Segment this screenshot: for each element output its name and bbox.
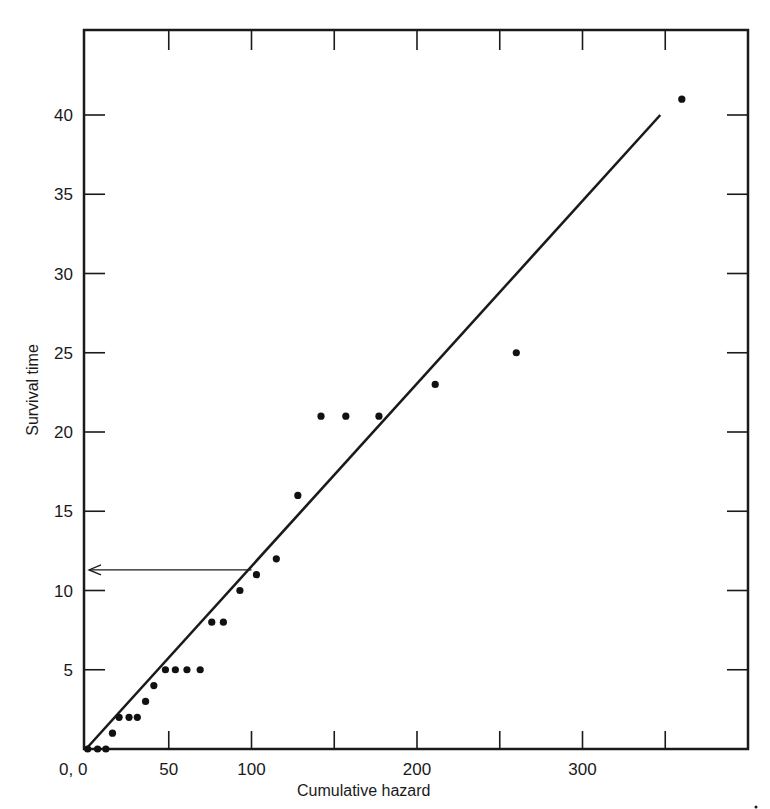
data-point bbox=[317, 413, 324, 420]
x-tick-label: 100 bbox=[237, 760, 265, 779]
tick-labels: 0, 050100200300510152025303540 bbox=[54, 106, 597, 779]
x-tick-label: 300 bbox=[568, 760, 596, 779]
data-point bbox=[142, 698, 149, 705]
data-point bbox=[197, 666, 204, 673]
data-point bbox=[253, 571, 260, 578]
data-point bbox=[162, 666, 169, 673]
y-tick-label: 20 bbox=[54, 423, 73, 442]
y-tick-label: 25 bbox=[54, 344, 73, 363]
fit-line bbox=[86, 115, 660, 749]
data-point bbox=[236, 587, 243, 594]
data-point bbox=[220, 619, 227, 626]
y-axis-title: Survival time bbox=[24, 344, 41, 436]
x-tick-label: 50 bbox=[159, 760, 178, 779]
y-tick-label: 40 bbox=[54, 106, 73, 125]
data-point bbox=[172, 666, 179, 673]
data-point bbox=[208, 619, 215, 626]
data-point bbox=[84, 745, 91, 752]
data-point bbox=[678, 96, 685, 103]
data-point bbox=[125, 714, 132, 721]
y-tick-label: 5 bbox=[64, 661, 73, 680]
stray-mark bbox=[755, 806, 758, 809]
data-point bbox=[94, 745, 101, 752]
y-tick-label: 30 bbox=[54, 265, 73, 284]
y-tick-label: 35 bbox=[54, 185, 73, 204]
data-point bbox=[375, 413, 382, 420]
data-point bbox=[513, 349, 520, 356]
data-point bbox=[109, 730, 116, 737]
data-point bbox=[150, 682, 157, 689]
y-tick-label: 15 bbox=[54, 502, 73, 521]
data-point bbox=[273, 555, 280, 562]
annotation-arrow bbox=[89, 565, 252, 575]
data-point bbox=[342, 413, 349, 420]
data-point bbox=[183, 666, 190, 673]
x-tick-label: 0, 0 bbox=[59, 760, 87, 779]
data-point bbox=[432, 381, 439, 388]
data-point bbox=[134, 714, 141, 721]
data-point bbox=[102, 745, 109, 752]
survival-hazard-plot: 0, 050100200300510152025303540 Cumulativ… bbox=[0, 0, 770, 809]
y-tick-label: 10 bbox=[54, 582, 73, 601]
x-axis-title: Cumulative hazard bbox=[297, 782, 430, 799]
data-points bbox=[84, 96, 685, 753]
data-point bbox=[294, 492, 301, 499]
x-tick-label: 200 bbox=[403, 760, 431, 779]
data-point bbox=[116, 714, 123, 721]
